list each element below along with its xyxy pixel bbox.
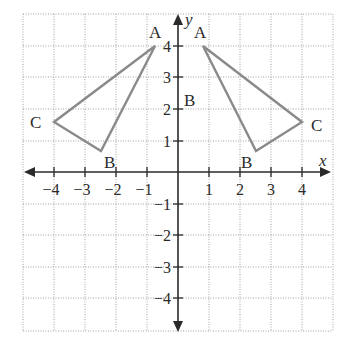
x-tick-label: 1 [205, 181, 213, 198]
y-tick-label: 4 [163, 38, 171, 55]
x-tick-label: −1 [135, 181, 152, 198]
vertex-label-b: B [104, 153, 115, 172]
y-axis [173, 14, 183, 332]
vertex-label-a: A [149, 23, 162, 42]
x-tick-label: −4 [42, 181, 59, 198]
x-tick-label: −2 [104, 181, 121, 198]
vertex-label-a: A [194, 23, 207, 42]
y-axis-label: y [183, 10, 193, 29]
y-tick-label: 3 [163, 69, 171, 86]
y-tick-label: −4 [154, 290, 171, 307]
left-triangle-labels: A B C [30, 23, 162, 172]
left-triangle [54, 46, 155, 151]
vertex-label-c: C [30, 113, 41, 132]
x-tick-label: −3 [73, 181, 90, 198]
x-tick-label: 2 [236, 181, 244, 198]
x-axis-label: x [318, 151, 327, 170]
extra-label-b: B [184, 91, 195, 110]
x-tick-labels: −4 −3 −2 −1 1 2 3 4 [42, 181, 306, 198]
vertex-label-b: B [241, 153, 252, 172]
x-tick-label: 4 [298, 181, 306, 198]
y-tick-label: 1 [163, 133, 171, 150]
x-axis-left-arrow-icon [24, 167, 35, 177]
right-triangle [203, 46, 302, 151]
vertex-label-c: C [311, 116, 322, 135]
coordinate-plane: −4 −3 −2 −1 1 2 3 4 4 3 2 1 −1 −2 −3 −4 … [0, 0, 350, 361]
y-tick-label: −1 [154, 196, 171, 213]
y-axis-up-arrow-icon [173, 14, 183, 25]
x-tick-label: 3 [267, 181, 275, 198]
y-tick-label: −3 [154, 259, 171, 276]
y-tick-label: 2 [163, 101, 171, 118]
y-tick-label: −2 [154, 227, 171, 244]
y-axis-down-arrow-icon [173, 321, 183, 332]
